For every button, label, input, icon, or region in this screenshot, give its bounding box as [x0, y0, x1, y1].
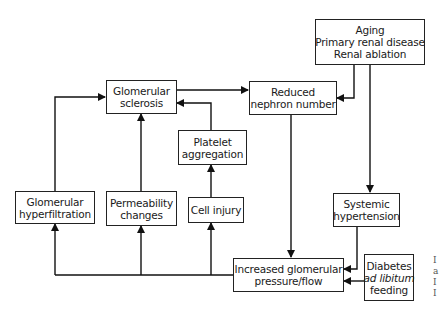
node-increased-glomerular-pressure: Increased glomerular pressure/flow: [233, 258, 344, 292]
node-glomerular-hyperfiltration-line-2: hyperfiltration: [19, 208, 91, 220]
node-systemic-hypertension-line-1: Systemic: [343, 198, 389, 210]
node-glomerular-hyperfiltration-line-1: Glomerular: [27, 196, 84, 208]
node-diabetes-feeding: Diabetes ad libitum feeding: [364, 254, 414, 301]
node-permeability-changes-line-2: changes: [120, 209, 163, 221]
node-diabetes-line-3: feeding: [370, 284, 408, 296]
node-reduced-nephron-line-1: Reduced: [271, 86, 315, 98]
node-diabetes-line-1: Diabetes: [366, 260, 411, 272]
cropped-caption-fragment: I a I I: [433, 255, 438, 299]
node-reduced-nephron-line-2: nephron number: [250, 98, 335, 110]
node-platelet-aggregation: Platelet aggregation: [178, 130, 247, 165]
node-systemic-hypertension: Systemic hypertension: [333, 193, 400, 227]
node-glomerular-sclerosis-line-1: Glomerular: [113, 85, 170, 97]
node-causes-line-3: Renal ablation: [334, 48, 406, 60]
node-systemic-hypertension-line-2: hypertension: [333, 210, 400, 222]
node-glomerular-hyperfiltration: Glomerular hyperfiltration: [15, 191, 95, 224]
node-permeability-changes: Permeability changes: [106, 191, 177, 226]
node-increased-pressure-line-2: pressure/flow: [255, 275, 323, 287]
caption-fragment-4: I: [433, 288, 438, 299]
node-platelet-aggregation-line-2: aggregation: [182, 148, 243, 160]
node-glomerular-sclerosis-line-2: sclerosis: [120, 97, 163, 109]
node-increased-pressure-line-1: Increased glomerular: [235, 263, 343, 275]
node-causes-line-2: Primary renal disease: [315, 36, 424, 48]
node-cell-injury: Cell injury: [188, 197, 244, 223]
caption-fragment-3: I: [433, 277, 438, 288]
caption-fragment-1: I: [433, 255, 438, 266]
caption-fragment-2: a: [433, 266, 438, 277]
node-causes-line-1: Aging: [355, 24, 384, 36]
node-platelet-aggregation-line-1: Platelet: [193, 136, 231, 148]
node-glomerular-sclerosis: Glomerular sclerosis: [106, 80, 177, 114]
node-permeability-changes-line-1: Permeability: [110, 197, 173, 209]
node-diabetes-line-2: ad libitum: [364, 272, 415, 284]
node-reduced-nephron-number: Reduced nephron number: [249, 81, 337, 115]
node-cell-injury-line-1: Cell injury: [191, 204, 241, 216]
node-causes: Aging Primary renal disease Renal ablati…: [315, 19, 425, 65]
